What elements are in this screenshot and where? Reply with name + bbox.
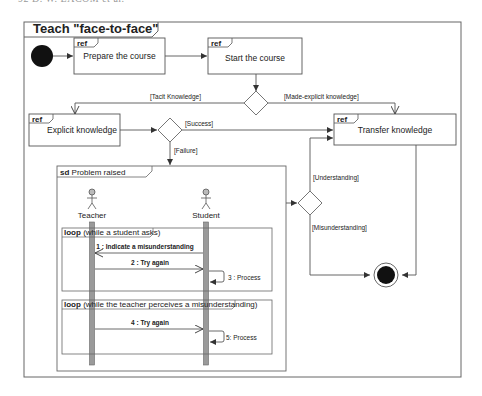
lifeline-label: Teacher <box>78 211 107 220</box>
action-start-the-course[interactable]: ref Start the course <box>208 38 302 74</box>
diagram-title: Teach "face-to-face" <box>33 21 159 36</box>
ref-tag: ref <box>77 39 88 48</box>
decision-node-outcome <box>158 118 182 142</box>
sd-title: Problem raised <box>72 168 126 177</box>
loop-label: loop (while a student asks) <box>64 228 161 237</box>
action-label: Explicit knowledge <box>47 125 117 135</box>
action-explicit-knowledge[interactable]: ref Explicit knowledge <box>29 114 120 146</box>
edge-made-explicit-knowledge <box>268 103 395 114</box>
edge-tacit-knowledge <box>75 103 244 114</box>
action-prepare-the-course[interactable]: ref Prepare the course <box>74 38 165 74</box>
actor-icon <box>203 189 209 195</box>
action-label: Start the course <box>225 53 285 63</box>
decision-node-understanding <box>298 191 322 215</box>
edge-understanding <box>310 138 333 191</box>
guard-understanding: [Understanding] <box>313 174 359 182</box>
decision-node-knowledge-type <box>244 91 268 115</box>
edge-transfer-to-final <box>402 145 416 275</box>
guard-success: [Success] <box>185 120 213 128</box>
sd-tag: sd <box>60 168 69 177</box>
lifeline-label: Student <box>192 211 220 220</box>
activation-bar <box>204 222 209 365</box>
guard-misunderstanding: [Misunderstanding] <box>312 224 367 232</box>
sd-frame-label: sd Problem raised <box>60 168 125 177</box>
message-5-label: 5: Process <box>226 334 257 341</box>
actor-icon <box>89 189 95 195</box>
guard-made-explicit-knowledge: [Made-explicit knowledge] <box>284 93 359 101</box>
loop-label: loop (while the teacher perceives a misu… <box>64 300 258 309</box>
action-transfer-knowledge[interactable]: ref Transfer knowledge <box>334 114 456 145</box>
ref-tag: ref <box>337 115 348 124</box>
action-label: Prepare the course <box>83 51 156 61</box>
activity-diagram: Teach "face-to-face" ref Prepare the cou… <box>0 0 482 396</box>
guard-failure: [Failure] <box>174 147 198 155</box>
ref-tag: ref <box>32 115 43 124</box>
guard-tacit-knowledge: [Tacit Knowledge] <box>150 93 201 101</box>
message-2-label: 2 : Try again <box>131 259 169 267</box>
message-3-label: 3 : Process <box>228 274 261 281</box>
message-4-label: 4 : Try again <box>131 319 169 327</box>
action-label: Transfer knowledge <box>358 125 433 135</box>
message-1-label: 1 : Indicate a misunderstanding <box>96 243 194 251</box>
ref-tag: ref <box>211 39 222 48</box>
activation-bar <box>90 222 95 365</box>
activity-final-node-icon <box>374 263 398 287</box>
initial-node-icon <box>31 45 53 67</box>
